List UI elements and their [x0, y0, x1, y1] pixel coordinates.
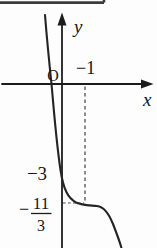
y-axis-arrowhead-icon [58, 13, 67, 26]
fraction-label: − 11 3 [19, 194, 52, 234]
y-intercept-label: −3 [27, 163, 47, 184]
fraction-denominator: 3 [37, 217, 45, 234]
y-axis-label: y [72, 16, 83, 37]
fraction-numerator: 11 [33, 194, 49, 213]
function-graph: y x O −1 −3 − 11 3 [0, 0, 157, 248]
x-mark-label: −1 [76, 58, 95, 78]
function-curve [45, 15, 122, 248]
cropped-frame-corner [0, 0, 104, 3]
fraction-minus-sign: − [19, 199, 29, 219]
x-axis-arrowhead-icon [141, 80, 154, 89]
figure-canvas: y x O −1 −3 − 11 3 [0, 0, 157, 248]
origin-label: O [47, 67, 59, 84]
x-axis-label: x [142, 89, 152, 110]
